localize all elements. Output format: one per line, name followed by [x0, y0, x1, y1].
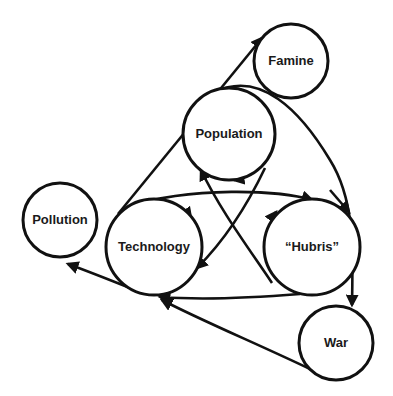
node-technology: Technology [106, 199, 202, 295]
causal-loop-diagram: Famine Population Pollution Technology “… [0, 0, 393, 396]
node-label-population: Population [195, 126, 262, 141]
node-label-pollution: Pollution [32, 212, 88, 227]
node-pollution: Pollution [23, 183, 97, 257]
node-label-famine: Famine [268, 53, 314, 68]
edge-technology-to-population-cross [201, 170, 272, 283]
node-hubris: “Hubris” [264, 199, 360, 295]
edge-war-to-technology [162, 300, 312, 370]
node-famine: Famine [254, 24, 328, 98]
node-label-hubris: “Hubris” [285, 239, 339, 254]
node-label-war: War [324, 335, 348, 350]
edge-hubris-to-technology [160, 294, 300, 298]
node-war: War [299, 306, 373, 380]
node-label-technology: Technology [118, 239, 191, 254]
node-population: Population [183, 88, 275, 180]
